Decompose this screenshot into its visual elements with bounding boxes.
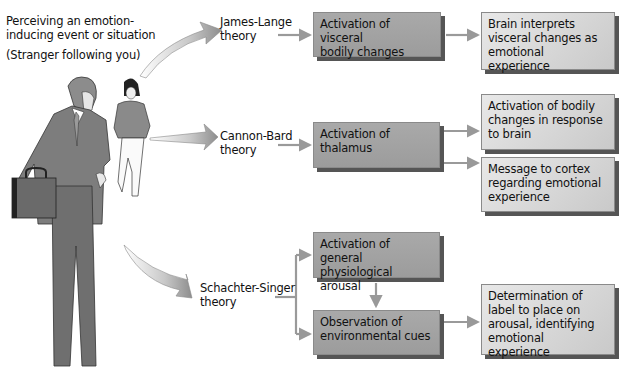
box-text: environmental cues <box>320 329 433 343</box>
schachter-singer-step-1: Activation of general physiological arou… <box>313 232 440 278</box>
box-text: changes in response <box>488 113 608 127</box>
box-text: thalamus <box>320 141 433 155</box>
cannon-bard-step-1: Activation of thalamus <box>313 122 440 168</box>
box-text: visceral changes as <box>488 31 608 45</box>
theory-name: Cannon-Bard <box>220 129 292 143</box>
theory-suffix: theory <box>220 143 292 157</box>
box-text: to brain <box>488 127 608 141</box>
man-figure-icon <box>12 77 110 366</box>
box-text: emotional experience <box>488 45 608 73</box>
theory-label-schachter-singer: Schachter-Singer theory <box>200 281 295 309</box>
stimulus-line-2: inducing event or situation <box>6 28 155 42</box>
box-text: Brain interprets <box>488 17 608 31</box>
arrow-to-cannon-bard-icon <box>150 124 218 150</box>
cannon-bard-step-2b: Message to cortex regarding emotional ex… <box>481 157 615 212</box>
james-lange-step-2: Brain interprets visceral changes as emo… <box>481 12 615 70</box>
box-text: Activation of bodily <box>488 99 608 113</box>
cannon-bard-step-2a: Activation of bodily changes in response… <box>481 94 615 150</box>
box-text: experience <box>488 190 608 204</box>
theory-suffix: theory <box>200 295 295 309</box>
box-text: emotional experience <box>488 331 608 359</box>
theory-label-cannon-bard: Cannon-Bard theory <box>220 129 292 157</box>
woman-figure-icon <box>114 78 150 196</box>
box-text: arousal, identifying <box>488 317 608 331</box>
stimulus-label: Perceiving an emotion- inducing event or… <box>6 14 155 42</box>
box-text: Message to cortex <box>488 162 608 176</box>
box-text: regarding emotional <box>488 176 608 190</box>
james-lange-step-1: Activation of visceral bodily changes <box>313 12 441 57</box>
box-text: Activation of <box>320 127 433 141</box>
box-text: Activation of visceral <box>320 17 434 45</box>
box-text: physiological arousal <box>320 265 433 293</box>
box-text: bodily changes <box>320 45 434 59</box>
box-text: Observation of <box>320 315 433 329</box>
box-text: label to place on <box>488 303 608 317</box>
stimulus-example: (Stranger following you) <box>6 48 140 62</box>
box-text: Activation of general <box>320 237 433 265</box>
theory-suffix: theory <box>220 29 292 43</box>
arrow-to-schachter-singer-icon <box>124 245 192 298</box>
stimulus-line-1: Perceiving an emotion- <box>6 14 155 28</box>
schachter-singer-step-2: Observation of environmental cues <box>313 310 440 355</box>
box-text: Determination of <box>488 289 608 303</box>
theory-label-james-lange: James-Lange theory <box>220 15 292 43</box>
theory-name: James-Lange <box>220 15 292 29</box>
theory-name: Schachter-Singer <box>200 281 295 295</box>
schachter-singer-step-3: Determination of label to place on arous… <box>481 284 615 355</box>
